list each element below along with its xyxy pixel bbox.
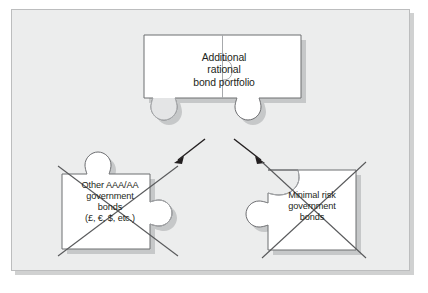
piece-label-minimal-risk-government-bonds: Minimal risk government bonds: [264, 190, 360, 223]
piece-label-additional-rational-bond-portfolio: Additional rational bond portfolio: [168, 52, 280, 89]
figure-root: Additional rational bond portfolio Other…: [0, 0, 428, 293]
piece-label-other-aaa-aa-government-bonds: Other AAA/AA government bonds (£, €, $, …: [58, 180, 162, 223]
diagram-panel: [11, 9, 410, 271]
